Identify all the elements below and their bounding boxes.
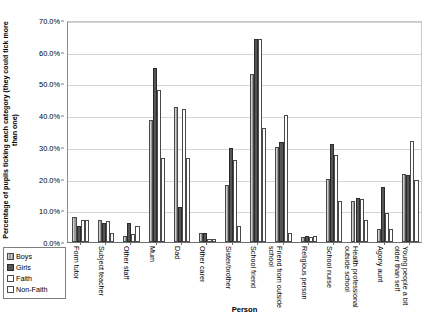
y-axis-tick-label: 10.0%: [18, 207, 60, 216]
bar[interactable]: [237, 226, 241, 242]
x-axis-title: Person: [67, 305, 422, 314]
x-axis-tick-mark: [156, 242, 157, 245]
bar[interactable]: [157, 90, 161, 242]
bar[interactable]: [186, 158, 190, 242]
bar[interactable]: [182, 109, 186, 242]
bar[interactable]: [131, 234, 135, 242]
bar[interactable]: [356, 198, 360, 242]
bar-group: [271, 22, 296, 242]
bar[interactable]: [338, 201, 342, 242]
bar[interactable]: [313, 236, 317, 242]
bar[interactable]: [330, 144, 334, 242]
legend-label: Faith: [16, 274, 32, 283]
bar[interactable]: [334, 155, 338, 242]
x-axis-tick-mark: [80, 242, 81, 245]
bar[interactable]: [174, 107, 178, 242]
bar[interactable]: [153, 68, 157, 242]
bar[interactable]: [102, 223, 106, 242]
bar-group: [296, 22, 321, 242]
bar[interactable]: [110, 233, 114, 243]
bar[interactable]: [377, 229, 381, 242]
x-axis-tick-mark: [130, 242, 131, 245]
bar[interactable]: [123, 236, 127, 242]
bar[interactable]: [233, 160, 237, 242]
y-axis-tick-label: 70.0%: [18, 17, 60, 26]
bar-group: [144, 22, 169, 242]
x-axis-tick-mark: [283, 242, 284, 245]
x-axis-tick-mark: [308, 242, 309, 245]
bar[interactable]: [161, 158, 165, 242]
legend-swatch-icon: [7, 286, 14, 293]
bar[interactable]: [351, 201, 355, 242]
bar[interactable]: [389, 229, 393, 242]
bar[interactable]: [254, 39, 258, 242]
bar[interactable]: [225, 185, 229, 242]
bar[interactable]: [288, 233, 292, 243]
y-axis-tick-mark: [61, 243, 64, 244]
bar[interactable]: [381, 187, 385, 243]
legend-label: Non-Faith: [16, 285, 48, 294]
bar-group: [68, 22, 93, 242]
bar-group: [119, 22, 144, 242]
bar[interactable]: [326, 179, 330, 242]
x-axis-tick-mark: [105, 242, 106, 245]
bar[interactable]: [410, 141, 414, 242]
y-axis-tick-mark: [61, 179, 64, 180]
bar[interactable]: [72, 217, 76, 242]
bar[interactable]: [364, 220, 368, 242]
bar[interactable]: [262, 128, 266, 242]
y-axis-tick-label: 30.0%: [18, 143, 60, 152]
bar[interactable]: [250, 74, 254, 242]
bar[interactable]: [127, 223, 131, 242]
bar[interactable]: [414, 180, 418, 242]
bar-group: [398, 22, 423, 242]
legend-item[interactable]: Boys: [7, 251, 63, 262]
bar[interactable]: [229, 148, 233, 242]
bar[interactable]: [149, 120, 153, 242]
bar[interactable]: [106, 221, 110, 242]
bar-group: [372, 22, 397, 242]
legend-swatch-icon: [7, 264, 14, 271]
bar-group: [347, 22, 372, 242]
legend-item[interactable]: Girls: [7, 262, 63, 273]
y-axis-tick-label: 20.0%: [18, 175, 60, 184]
bar[interactable]: [212, 239, 216, 242]
bar[interactable]: [207, 239, 211, 242]
bar[interactable]: [284, 115, 288, 242]
y-axis-tick-label: 40.0%: [18, 112, 60, 121]
bar[interactable]: [309, 237, 313, 242]
bar[interactable]: [305, 236, 309, 242]
bar[interactable]: [258, 39, 262, 242]
bar[interactable]: [402, 174, 406, 242]
bar[interactable]: [279, 142, 283, 242]
legend-item[interactable]: Faith: [7, 273, 63, 284]
bar-group: [246, 22, 271, 242]
legend-swatch-icon: [7, 253, 14, 260]
bar[interactable]: [81, 220, 85, 242]
bar[interactable]: [135, 226, 139, 242]
x-axis-tick-mark: [409, 242, 410, 245]
bar[interactable]: [98, 220, 102, 242]
x-axis-tick-mark: [384, 242, 385, 245]
x-axis-tick-mark: [359, 242, 360, 245]
bar[interactable]: [406, 175, 410, 242]
bar[interactable]: [301, 237, 305, 242]
bar[interactable]: [85, 220, 89, 242]
legend-label: Boys: [16, 252, 32, 261]
x-axis-tick-mark: [206, 242, 207, 245]
bar[interactable]: [77, 226, 81, 242]
bar-group: [169, 22, 194, 242]
y-axis-ticks: 0.0%10.0%20.0%30.0%40.0%50.0%60.0%70.0%: [20, 15, 64, 247]
legend-item[interactable]: Non-Faith: [7, 284, 63, 295]
bar-group: [93, 22, 118, 242]
x-axis-tick-mark: [257, 242, 258, 245]
bar[interactable]: [178, 207, 182, 242]
bars-layer: [68, 22, 421, 242]
plot-area: [67, 21, 422, 243]
bar[interactable]: [385, 213, 389, 242]
y-axis-tick-mark: [61, 52, 64, 53]
bar[interactable]: [199, 233, 203, 243]
bar[interactable]: [203, 233, 207, 243]
bar[interactable]: [275, 147, 279, 242]
bar[interactable]: [360, 199, 364, 242]
